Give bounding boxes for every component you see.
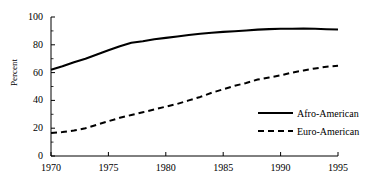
legend-item-euro-american: Euro-American <box>297 127 359 137</box>
series-line-afro-american <box>51 29 338 70</box>
y-tick-label: 0 <box>17 151 43 161</box>
y-tick-label: 80 <box>17 40 43 50</box>
y-tick-label: 20 <box>17 123 43 133</box>
x-axis-major-ticks <box>51 152 338 156</box>
series-line-euro-american <box>51 66 338 133</box>
x-tick-label: 1990 <box>261 163 301 173</box>
y-tick-label: 60 <box>17 68 43 78</box>
chart-container: Percent 020406080100 1970197519801985199… <box>0 0 370 190</box>
x-tick-label: 1970 <box>31 163 71 173</box>
x-tick-label: 1980 <box>146 163 186 173</box>
y-tick-label: 40 <box>17 95 43 105</box>
legend-item-afro-american: Afro-American <box>297 109 359 119</box>
chart-series-group <box>51 29 338 134</box>
x-tick-label: 1995 <box>318 163 358 173</box>
y-tick-label: 100 <box>17 12 43 22</box>
legend-sample-lines <box>258 113 293 131</box>
chart-axes <box>51 17 338 156</box>
x-tick-label: 1975 <box>88 163 128 173</box>
x-tick-label: 1985 <box>203 163 243 173</box>
